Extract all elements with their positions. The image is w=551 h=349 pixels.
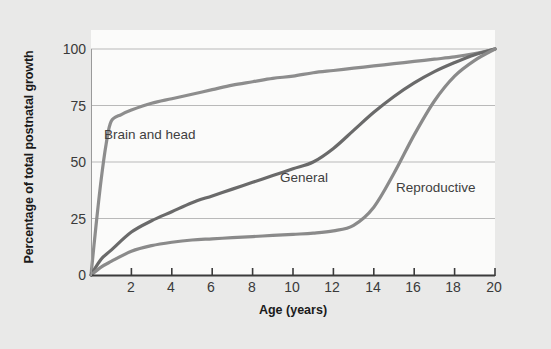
growth-curves-figure: Percentage of total postnatal growth 100… [0, 0, 551, 349]
curve-label-reproductive: Reproductive [396, 180, 476, 195]
curve-label-general: General [280, 170, 328, 185]
curve-label-brain-and-head: Brain and head [104, 127, 196, 142]
chart-svg [0, 0, 551, 349]
